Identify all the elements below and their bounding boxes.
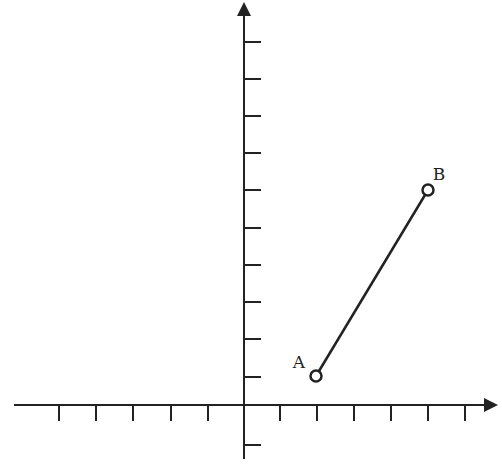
y-axis-arrow-icon bbox=[237, 2, 251, 16]
point-b bbox=[423, 185, 434, 196]
point-b-label: B bbox=[433, 164, 446, 184]
x-axis-arrow-icon bbox=[484, 398, 498, 412]
segment-AB bbox=[316, 190, 428, 376]
point-a-label: A bbox=[292, 352, 306, 372]
coordinate-plane: AB bbox=[0, 0, 502, 476]
line-segments bbox=[316, 190, 428, 376]
axes bbox=[14, 2, 498, 459]
point-a bbox=[311, 371, 322, 382]
plotted-points: AB bbox=[292, 164, 445, 382]
axis-ticks bbox=[59, 42, 465, 445]
